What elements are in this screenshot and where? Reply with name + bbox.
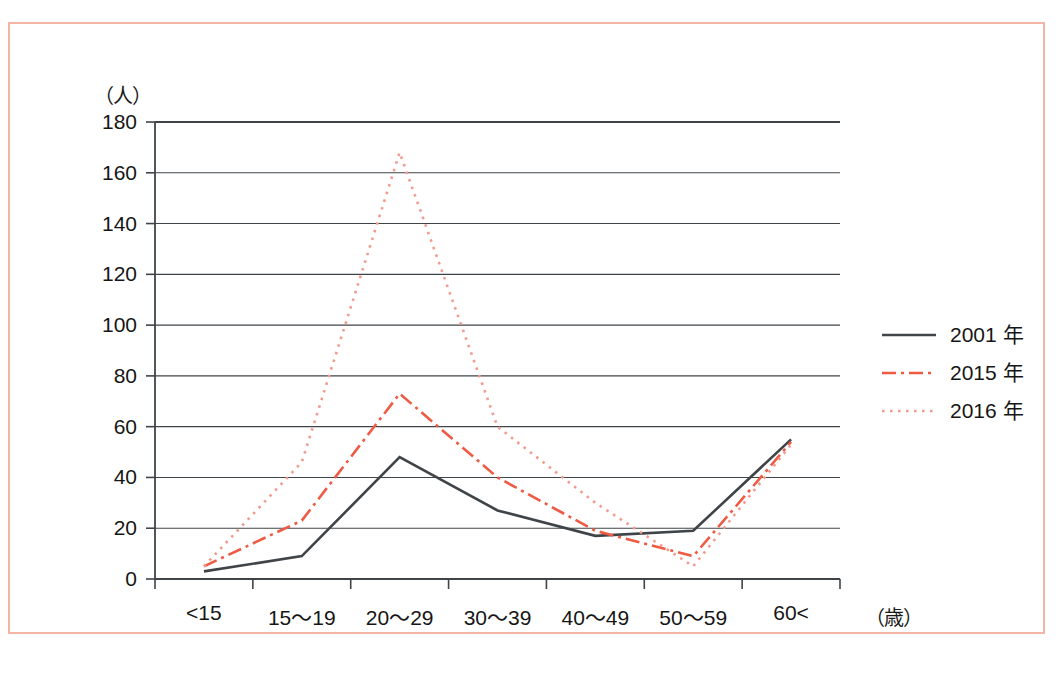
legend-item[interactable]: 2016 年 [882,390,1024,428]
chart-figure-frame: （人） （歳） 020406080100120140160180 <1515〜1… [8,22,1045,634]
series-line-1 [204,439,791,571]
legend-key-swatch [882,327,936,339]
legend-item[interactable]: 2001 年 [882,314,1024,352]
legend-key-swatch [882,403,936,415]
legend-label: 2015 年 [950,356,1024,386]
chart-legend: 2001 年2015 年2016 年 [882,314,1024,428]
chart-plot-area: （人） （歳） 020406080100120140160180 <1515〜1… [10,24,1043,632]
legend-key-swatch [882,365,936,377]
series-line-3 [204,152,791,566]
series-line-2 [204,394,791,567]
legend-label: 2016 年 [950,394,1024,424]
legend-label: 2001 年 [950,318,1024,348]
legend-item[interactable]: 2015 年 [882,352,1024,390]
